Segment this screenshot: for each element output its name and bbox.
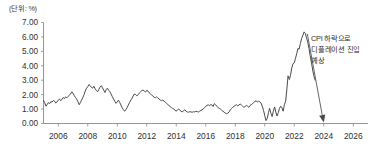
- y-tick-label: 3.00: [22, 76, 38, 85]
- x-tick-label: 2014: [167, 131, 186, 141]
- x-tick-label: 2022: [285, 131, 304, 141]
- annotation-arrow-head: [319, 115, 325, 123]
- x-tick-label: 2016: [196, 131, 215, 141]
- annotation-line-1: CPI 하락으로: [311, 33, 376, 44]
- y-tick-label: 4.00: [22, 62, 38, 71]
- annotation-label: CPI 하락으로 디플레이션 진입 예상: [311, 33, 376, 66]
- annotation-line-3: 예상: [311, 55, 376, 66]
- x-tick-label: 2012: [137, 131, 156, 141]
- data-series-group: [44, 32, 316, 121]
- x-tick-label: 2024: [314, 131, 333, 141]
- y-tick-label: 7.00: [22, 18, 38, 27]
- cpi-inflation-chart: (단위: %) 0.001.002.003.004.005.006.007.00…: [0, 0, 376, 160]
- x-tick-label: 2020: [255, 131, 274, 141]
- x-tick-label: 2026: [344, 131, 363, 141]
- x-axis-tick-labels: 2006200820102012201420162018202020222024…: [49, 131, 363, 141]
- y-axis-tick-labels: 0.001.002.003.004.005.006.007.00: [22, 18, 38, 128]
- y-tick-label: 1.00: [22, 105, 38, 114]
- x-tick-label: 2008: [78, 131, 97, 141]
- series-line-cpi: [44, 32, 316, 121]
- x-tick-label: 2010: [108, 131, 127, 141]
- annotation-line-2: 디플레이션 진입: [311, 44, 376, 55]
- y-tick-label: 6.00: [22, 33, 38, 42]
- x-tick-label: 2006: [49, 131, 68, 141]
- y-tick-label: 2.00: [22, 91, 38, 100]
- y-tick-label: 5.00: [22, 47, 38, 56]
- chart-plot-area: 0.001.002.003.004.005.006.007.00 2006200…: [0, 0, 376, 160]
- x-tick-label: 2018: [226, 131, 245, 141]
- y-tick-label: 0.00: [22, 119, 38, 128]
